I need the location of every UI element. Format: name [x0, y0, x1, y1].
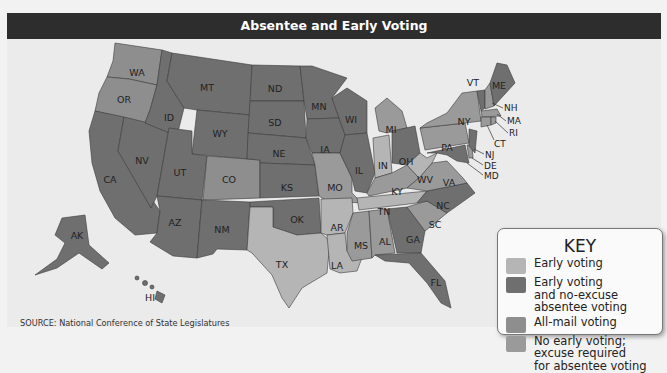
key-label: All-mail voting: [534, 316, 617, 329]
key-label: No early voting; excuse required for abs…: [534, 335, 647, 373]
state-ct: [481, 117, 491, 127]
label-hi: HI: [145, 292, 155, 303]
label-vt: VT: [467, 77, 479, 88]
label-ri: RI: [509, 128, 518, 138]
label-ny: NY: [458, 116, 471, 127]
key-item-no-early-voting: No early voting; excuse required for abs…: [506, 335, 662, 373]
label-mo: MO: [327, 182, 343, 193]
key-item-early-and-no-excuse: Early voting and no-excuse absentee voti…: [506, 276, 662, 314]
label-nc: NC: [436, 200, 450, 211]
label-ne: NE: [272, 148, 285, 159]
label-in: IN: [378, 160, 388, 171]
label-de: DE: [484, 161, 497, 171]
map-key: KEY Early voting Early voting and no-exc…: [497, 228, 663, 335]
label-la: LA: [331, 260, 344, 271]
label-ct: CT: [494, 139, 506, 149]
label-nm: NM: [214, 224, 229, 235]
label-ia: IA: [320, 144, 330, 155]
key-item-all-mail: All-mail voting: [506, 316, 662, 333]
key-label: Early voting: [534, 257, 603, 270]
label-ar: AR: [330, 222, 343, 233]
label-ms: MS: [354, 240, 368, 251]
swatch-all-mail: [506, 317, 526, 333]
label-az: AZ: [168, 217, 181, 228]
map-figure: Absentee and Early Voting: [7, 13, 661, 327]
label-mt: MT: [200, 82, 214, 93]
state-ak: [35, 215, 109, 275]
label-oh: OH: [399, 156, 414, 167]
label-md: MD: [484, 171, 499, 181]
label-or: OR: [117, 94, 131, 105]
swatch-early-voting: [506, 258, 526, 274]
label-id: ID: [164, 112, 174, 123]
label-nd: ND: [268, 83, 282, 94]
label-va: VA: [443, 177, 456, 188]
label-ks: KS: [281, 182, 293, 193]
label-ca: CA: [103, 174, 117, 185]
label-tn: TN: [377, 206, 391, 217]
label-nj: NJ: [485, 150, 494, 160]
label-mi: MI: [386, 124, 397, 135]
swatch-early-and-no-excuse: [506, 277, 526, 293]
label-wi: WI: [345, 114, 357, 125]
source-note: SOURCE: National Conference of State Leg…: [20, 318, 229, 328]
swatch-no-early-voting: [506, 336, 526, 352]
state-ny: [420, 91, 481, 128]
label-il: IL: [355, 165, 364, 176]
label-wa: WA: [129, 67, 145, 78]
label-sd: SD: [268, 117, 281, 128]
label-ga: GA: [406, 234, 420, 245]
label-pa: PA: [441, 142, 453, 153]
label-al: AL: [379, 236, 391, 247]
label-wy: WY: [212, 128, 227, 139]
key-title: KEY: [498, 237, 662, 255]
key-item-early-voting: Early voting: [506, 257, 662, 274]
label-ok: OK: [290, 214, 304, 225]
label-wv: WV: [417, 174, 433, 185]
label-fl: FL: [431, 277, 442, 288]
label-nv: NV: [135, 155, 149, 166]
label-nh: NH: [504, 103, 518, 113]
label-ut: UT: [174, 167, 187, 178]
label-tx: TX: [275, 259, 289, 270]
label-ky: KY: [391, 186, 403, 197]
label-co: CO: [222, 174, 236, 185]
label-ak: AK: [71, 230, 84, 241]
state-in: [373, 135, 392, 178]
key-label: Early voting and no-excuse absentee voti…: [534, 276, 627, 314]
label-me: ME: [492, 80, 506, 91]
label-ma: MA: [507, 116, 522, 126]
label-sc: SC: [429, 219, 442, 230]
label-mn: MN: [311, 101, 326, 112]
state-ma: [481, 109, 501, 117]
